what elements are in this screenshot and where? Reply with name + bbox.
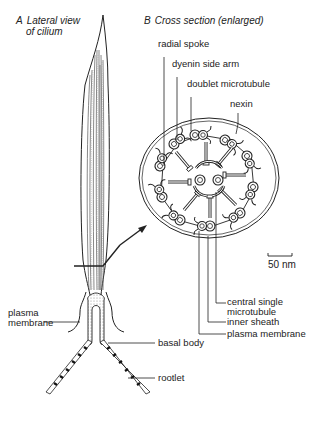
cilium-diagram: ALateral view of cilium BCross section (… [0,0,311,432]
label-inner-sheath: inner sheath [227,317,279,327]
panel-a-title-line1: Lateral view [27,15,80,26]
diagram-drawing [0,0,311,432]
label-scale-bar: 50 nm [268,260,296,270]
label-rootlet: rootlet [158,373,184,383]
panel-b-title-text: Cross section (enlarged) [155,15,264,26]
panel-a-title: ALateral view [16,15,80,26]
label-plasma-membrane-b: plasma membrane [227,329,306,339]
label-radial-spoke: radial spoke [158,39,209,49]
label-dyenin-side-arm: dyenin side arm [172,59,239,69]
panel-a-title-line2: of cilium [26,26,63,37]
label-nexin: nexin [230,99,253,109]
cilium-lateral-view [44,15,155,394]
label-basal-body: basal body [158,338,204,348]
label-plasma-membrane-a-line2: membrane [8,318,53,328]
panel-b-letter: B [144,15,151,26]
label-doublet-microtubule: doublet microtubule [187,79,270,89]
cilium-cross-section [139,57,292,334]
panel-b-title: BCross section (enlarged) [144,15,264,26]
panel-a-letter: A [16,15,23,26]
